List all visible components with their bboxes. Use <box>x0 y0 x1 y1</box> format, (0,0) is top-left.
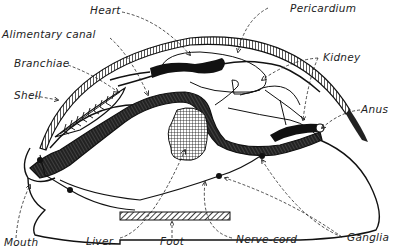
label-mouth: Mouth <box>4 236 38 248</box>
label-kidney: Kidney <box>323 51 361 63</box>
liver <box>168 108 207 160</box>
label-ganglia: Ganglia <box>347 231 389 243</box>
label-nerve-cord: Nerve-cord <box>236 233 297 245</box>
label-alimentary-canal: Alimentary canal <box>2 28 96 40</box>
nerve-cord <box>40 155 262 210</box>
label-shell: Shell <box>14 89 41 101</box>
label-foot: Foot <box>160 235 184 247</box>
label-anus: Anus <box>361 103 388 115</box>
anatomy-diagram: Heart Pericardium Alimentary canal Kidne… <box>0 0 393 249</box>
label-liver: Liver <box>86 235 113 247</box>
foot <box>120 212 230 220</box>
label-pericardium: Pericardium <box>290 2 356 14</box>
label-heart: Heart <box>90 4 121 16</box>
label-branchiae: Branchiae <box>14 57 70 69</box>
